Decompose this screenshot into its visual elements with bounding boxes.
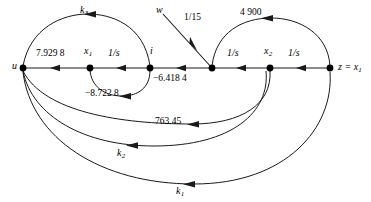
node-dot-u[interactable]: [20, 65, 27, 72]
curve-763: [23, 71, 270, 124]
arrow-763: [187, 121, 199, 128]
edge-763-path: [23, 71, 270, 124]
output-label-z: z = x1: [338, 62, 362, 74]
node-label-x1-sub: 1: [88, 50, 92, 58]
curve-4900: [212, 18, 330, 66]
gain-label-x2-z: 1/s: [288, 48, 300, 58]
edge-k2-path: [23, 71, 266, 146]
arrow-x1-loop: [119, 93, 131, 100]
gain-label-k1-sub: 1: [180, 190, 184, 198]
gain-label-i-n4: −6.418 4: [153, 74, 187, 84]
edge-4900-path: [212, 18, 330, 66]
output-label-z-sub: 1: [358, 66, 362, 74]
node-label-x2-sub: 2: [268, 50, 272, 58]
gain-label-x1-i: 1/s: [108, 48, 120, 58]
arrow-w-to-n4: [189, 36, 197, 51]
node-dot-z[interactable]: [327, 65, 334, 72]
curve-k2: [23, 71, 266, 146]
gain-label-k1: k1: [176, 186, 184, 198]
arrow-n4-x2: [236, 65, 246, 71]
gain-label-u-x1: 7.929 8: [36, 49, 65, 59]
graph-canvas: [0, 0, 371, 202]
signal-flow-graph-figure: u x1 i x2 w z = x1 7.929 8 1/s −6.418 4 …: [0, 0, 371, 202]
gain-label-k2-sub: 2: [121, 152, 125, 160]
node-dot-x2[interactable]: [267, 65, 274, 72]
gain-label-k3: k3: [80, 5, 88, 17]
arrow-i-n4: [176, 65, 186, 71]
gain-label-x1-loop: −8.722 8: [85, 89, 119, 99]
node-label-i: i: [150, 46, 153, 56]
node-dot-n4[interactable]: [209, 65, 216, 72]
gain-label-w-n4: 1/15: [184, 13, 201, 23]
edge-k1-path: [23, 72, 330, 184]
arrow-4900: [261, 15, 273, 22]
gain-label-763: 763.45: [155, 117, 181, 127]
node-dot-i[interactable]: [147, 65, 154, 72]
arrow-k2: [126, 142, 138, 149]
arrow-x1-i: [116, 65, 126, 71]
arrow-x2-z: [296, 65, 306, 71]
node-label-x2: x2: [264, 46, 272, 58]
arrow-u-x1: [50, 65, 60, 71]
gain-label-k2: k2: [117, 148, 125, 160]
gain-label-4900: 4 900: [240, 8, 261, 18]
node-label-x1: x1: [84, 46, 92, 58]
node-dot-x1[interactable]: [87, 65, 94, 72]
gain-label-k3-sub: 3: [84, 9, 88, 17]
curve-k1: [23, 72, 330, 184]
arrow-k1: [183, 181, 195, 188]
output-label-z-text: z = x: [338, 61, 358, 72]
source-label-w: w: [156, 5, 163, 15]
gain-label-n4-x2: 1/s: [227, 48, 239, 58]
node-label-u: u: [12, 61, 17, 71]
